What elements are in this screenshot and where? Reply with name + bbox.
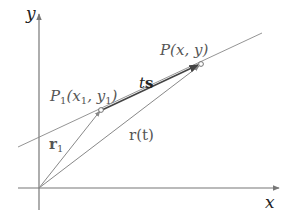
x-axis-label: x	[265, 192, 275, 212]
point-p-label: P(x, y)	[159, 41, 208, 59]
vector-r1-label: r1	[49, 135, 63, 154]
point-p1-label: P1(x1, y1)	[49, 87, 118, 106]
vector-rt-label: r(t)	[129, 126, 154, 144]
point-p	[199, 62, 204, 67]
point-p1	[99, 108, 104, 113]
vector-rt	[39, 66, 199, 188]
vector-ts-label: ts	[139, 74, 153, 92]
line-vector-diagram: y x P1(x1, y1) P(x, y) ts r1 r(t)	[0, 0, 308, 219]
y-axis-label: y	[25, 3, 36, 23]
